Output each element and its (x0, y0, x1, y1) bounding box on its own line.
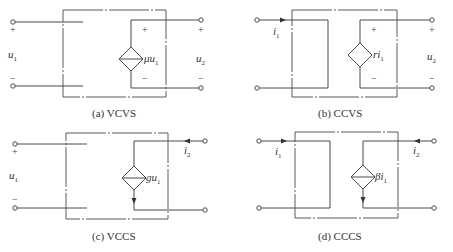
terminal (430, 86, 434, 90)
source-direction-arrow-icon (361, 197, 366, 203)
input-short-circuit (259, 20, 328, 88)
input-current-label: i1 (275, 145, 282, 160)
plus-sign: + (12, 146, 18, 157)
current-arrow-icon (281, 139, 287, 144)
current-arrow-icon (414, 139, 420, 144)
input-voltage-label: u1 (8, 48, 18, 63)
minus-sign: − (429, 73, 435, 84)
panel-ccvs: i1 + − + − ri1 u2 (b) CCVS (255, 10, 437, 120)
terminal (13, 206, 17, 210)
dependent-current-source-icon (122, 166, 146, 190)
plus-sign: + (10, 24, 16, 35)
source-value-label: βi1 (374, 170, 388, 185)
source-value-label: gu1 (146, 171, 161, 186)
terminal (430, 18, 434, 22)
input-voltage-label: u1 (9, 169, 19, 184)
caption: (d) CCCS (318, 230, 362, 243)
output-current-label: i2 (413, 144, 420, 159)
dependent-voltage-source-icon (119, 47, 143, 71)
output-voltage-label: u2 (196, 52, 206, 67)
minus-sign: − (142, 73, 148, 84)
plus-sign: + (198, 24, 204, 35)
output-current-label: i2 (184, 144, 191, 159)
input-current-label: i1 (273, 25, 280, 40)
current-arrow-icon (184, 139, 190, 144)
caption: (c) VCCS (92, 230, 136, 243)
two-port-box (292, 10, 397, 97)
minus-sign: − (198, 73, 204, 84)
panel-cccs: i1 βi1 i2 (d) CCCS (257, 132, 436, 243)
caption: (a) VCVS (92, 107, 136, 120)
terminal (203, 208, 207, 212)
source-value-label: ri1 (373, 48, 384, 63)
controlled-sources-diagram: + − u1 + − + − μu1 u2 (a) VCVS i1 (0, 0, 453, 252)
plus-sign: + (371, 24, 377, 35)
source-value-label: μu1 (143, 52, 159, 67)
current-arrow-icon (280, 18, 286, 23)
terminal (255, 18, 259, 22)
terminal (199, 18, 203, 22)
panel-vcvs: + − u1 + − + − μu1 u2 (a) VCVS (8, 10, 206, 120)
terminal (199, 86, 203, 90)
terminal (432, 139, 436, 143)
caption: (b) CCVS (318, 107, 362, 120)
plus-sign: + (142, 24, 148, 35)
dependent-voltage-source-icon (348, 43, 372, 67)
terminal (255, 86, 259, 90)
minus-sign: − (371, 73, 377, 84)
terminal (432, 206, 436, 210)
terminal (257, 139, 261, 143)
panel-vccs: + − u1 gu1 i2 (c) VCCS (9, 133, 207, 243)
minus-sign: − (10, 73, 16, 84)
dependent-current-source-icon (351, 165, 375, 189)
output-voltage-label: u2 (427, 50, 437, 65)
terminal (257, 206, 261, 210)
source-direction-arrow-icon (132, 198, 137, 204)
plus-sign: + (429, 24, 435, 35)
minus-sign: − (12, 194, 18, 205)
terminal (11, 84, 15, 88)
terminal (203, 139, 207, 143)
